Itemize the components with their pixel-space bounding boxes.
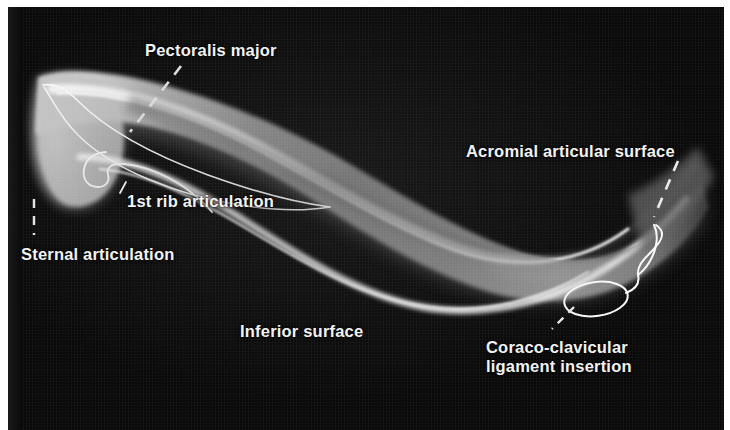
photographic-plate: Pectoralis major Acromial articular surf… [8,7,724,430]
leader-coracoclavicular [552,307,574,329]
label-coracoclavicular-line2: ligament insertion [486,357,632,375]
leader-first-rib [120,182,126,193]
anatomy-figure: Pectoralis major Acromial articular surf… [0,0,730,430]
leader-pectoralis-major [130,66,181,132]
label-inferior-surface: Inferior surface [240,322,363,340]
label-pectoralis-major: Pectoralis major [145,41,277,59]
label-1st-rib-articulation: 1st rib articulation [127,192,274,210]
label-acromial-articular-surface: Acromial articular surface [466,142,675,160]
label-sternal-articulation: Sternal articulation [21,245,174,263]
label-coracoclavicular-line1: Coraco-clavicular [486,338,628,356]
leader-acromial-surface [654,161,678,217]
